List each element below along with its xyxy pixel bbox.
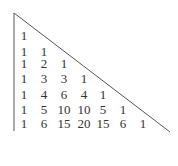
triangle-cell: 1 [75, 72, 93, 85]
triangle-cell: 1 [94, 88, 112, 101]
triangle-cell: 6 [55, 88, 73, 101]
triangle-cell: 1 [15, 117, 33, 130]
triangle-cell: 1 [55, 57, 73, 70]
triangle-cell: 5 [35, 103, 53, 116]
triangle-cell: 10 [55, 103, 73, 116]
triangle-cell: 1 [15, 72, 33, 85]
triangle-cell: 1 [15, 103, 33, 116]
triangle-cell: 1 [15, 57, 33, 70]
pascal-triangle-diagram: 111121133114641151010511615201561 [0, 0, 178, 166]
triangle-cell: 4 [35, 88, 53, 101]
triangle-cell: 5 [94, 103, 112, 116]
triangle-cell: 15 [55, 117, 73, 130]
triangle-cell: 6 [114, 117, 132, 130]
triangle-cell: 1 [134, 117, 152, 130]
triangle-cell: 6 [35, 117, 53, 130]
triangle-cell: 1 [15, 29, 33, 42]
triangle-cell: 10 [75, 103, 93, 116]
triangle-cell: 1 [15, 88, 33, 101]
triangle-cell: 4 [75, 88, 93, 101]
triangle-cell: 3 [35, 72, 53, 85]
triangle-cell: 15 [94, 117, 112, 130]
triangle-cell: 2 [35, 57, 53, 70]
triangle-cell: 1 [114, 103, 132, 116]
triangle-cell: 20 [75, 117, 93, 130]
triangle-cell: 3 [55, 72, 73, 85]
